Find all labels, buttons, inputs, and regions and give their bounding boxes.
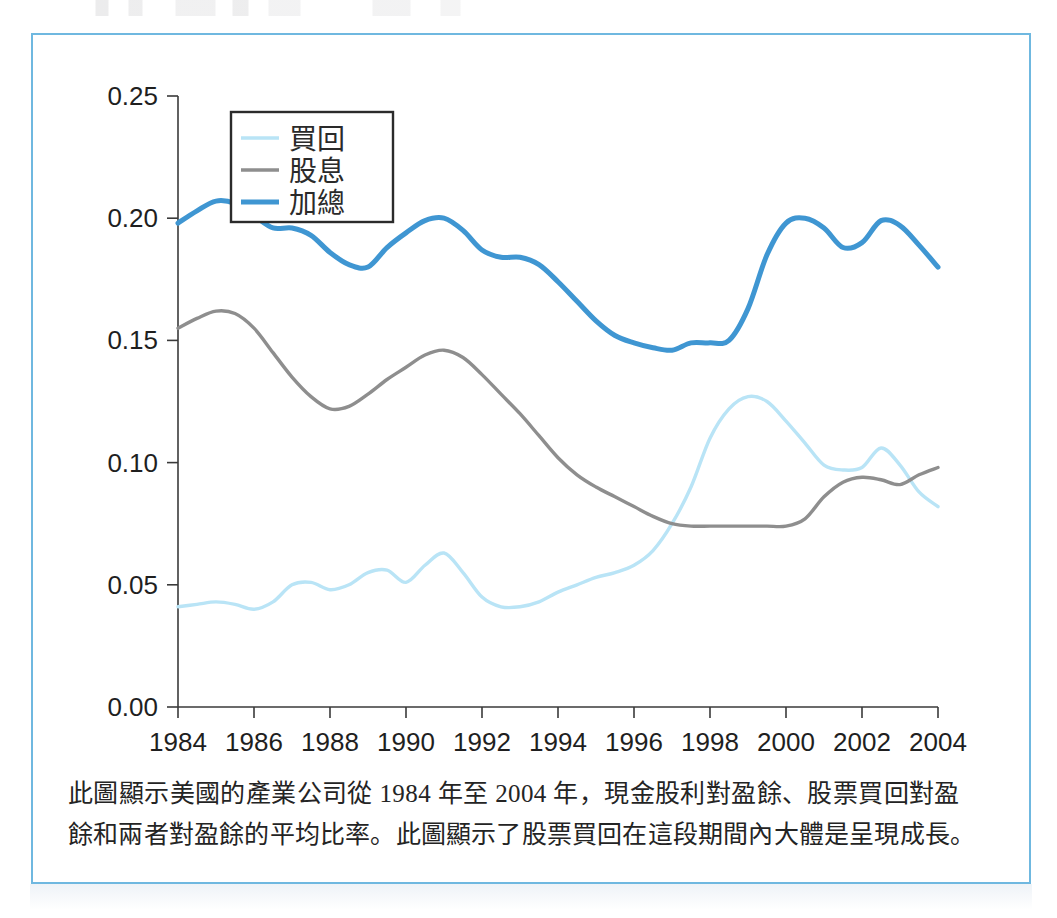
legend-label-股息: 股息 bbox=[289, 156, 345, 187]
y-axis-tick-label: 0.15 bbox=[107, 325, 158, 355]
figure-frame: 0.000.050.100.150.200.251984198619881990… bbox=[31, 33, 1031, 884]
caption-line-2: 餘和兩者對盈餘的平均比率。此圖顯示了股票買回在這段期間內大體是呈現成長。 bbox=[68, 814, 998, 855]
x-axis-tick-label: 1984 bbox=[149, 727, 207, 755]
x-axis-tick-label: 2004 bbox=[909, 727, 967, 755]
x-axis-tick-label: 1996 bbox=[605, 727, 663, 755]
legend-label-買回: 買回 bbox=[289, 124, 345, 155]
scan-artifact-strip bbox=[0, 0, 1057, 16]
legend-label-加總: 加總 bbox=[289, 188, 345, 219]
series-line-股息 bbox=[178, 311, 938, 527]
series-line-買回 bbox=[178, 396, 938, 609]
page-shadow bbox=[30, 884, 1032, 910]
figure-caption: 此圖顯示美國的產業公司從 1984 年至 2004 年，現金股利對盈餘、股票買回… bbox=[68, 773, 998, 855]
x-axis-tick-label: 1990 bbox=[377, 727, 435, 755]
x-axis-tick-label: 1992 bbox=[453, 727, 511, 755]
y-axis-tick-label: 0.00 bbox=[107, 692, 158, 722]
y-axis-tick-label: 0.05 bbox=[107, 570, 158, 600]
y-axis-tick-label: 0.10 bbox=[107, 448, 158, 478]
x-axis-tick-label: 1998 bbox=[681, 727, 739, 755]
y-axis-tick-label: 0.25 bbox=[107, 81, 158, 111]
caption-line-1: 此圖顯示美國的產業公司從 1984 年至 2004 年，現金股利對盈餘、股票買回… bbox=[68, 773, 998, 814]
line-chart: 0.000.050.100.150.200.251984198619881990… bbox=[33, 35, 1029, 755]
x-axis-tick-label: 2002 bbox=[833, 727, 891, 755]
chart-legend: 買回股息加總 bbox=[231, 112, 393, 222]
x-axis-tick-label: 1986 bbox=[225, 727, 283, 755]
series-layer bbox=[178, 201, 938, 610]
x-axis-tick-label: 1994 bbox=[529, 727, 587, 755]
chart-plot-area: 0.000.050.100.150.200.251984198619881990… bbox=[33, 35, 1029, 755]
x-axis-tick-label: 1988 bbox=[301, 727, 359, 755]
x-axis-tick-label: 2000 bbox=[757, 727, 815, 755]
y-axis-tick-label: 0.20 bbox=[107, 203, 158, 233]
